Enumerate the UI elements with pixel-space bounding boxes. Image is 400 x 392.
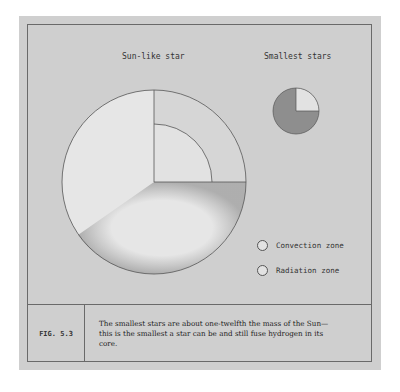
legend-label: Radiation zone: [276, 266, 339, 275]
radiation-swatch-icon: [257, 265, 268, 276]
figure-number: FIG. 5.3: [28, 305, 85, 362]
figure-frame: Sun-like star Smallest stars: [27, 24, 372, 362]
legend-item-convection: Convection zone: [257, 240, 344, 251]
smallest-star: [273, 88, 319, 134]
figure-caption: FIG. 5.3 The smallest stars are about on…: [28, 304, 371, 362]
caption-text: The smallest stars are about one-twelfth…: [99, 319, 329, 349]
figure-panel: Sun-like star Smallest stars: [19, 16, 381, 370]
legend-label: Convection zone: [276, 241, 344, 250]
legend-item-radiation: Radiation zone: [257, 265, 339, 276]
star-diagrams: [28, 25, 373, 305]
convection-swatch-icon: [257, 240, 268, 251]
sun-like-star: [62, 90, 246, 274]
